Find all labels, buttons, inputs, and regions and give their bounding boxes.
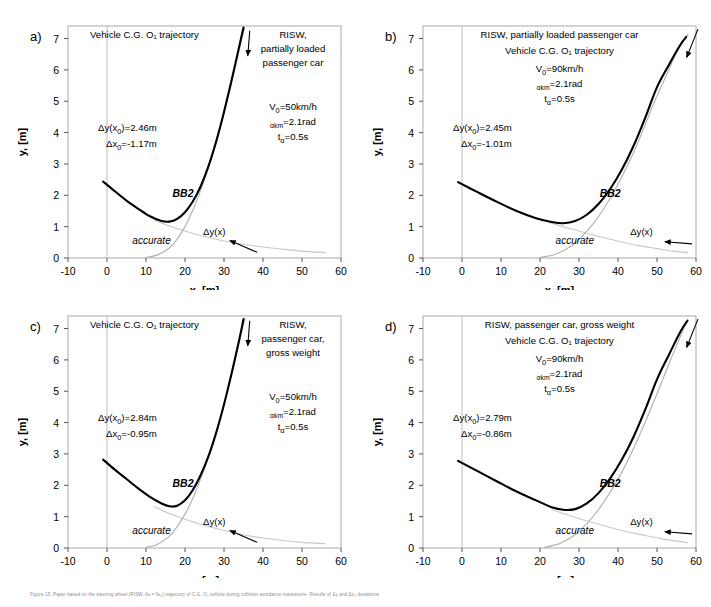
label-accurate: accurate xyxy=(132,235,171,246)
y-tick-label: 4 xyxy=(408,417,414,429)
y-tick-label: 5 xyxy=(408,95,414,107)
x-tick-label: 20 xyxy=(179,555,191,567)
x-tick-label: -10 xyxy=(415,555,430,567)
x-tick-label: 0 xyxy=(104,265,110,277)
label-bb2: BB2 xyxy=(600,477,621,489)
y-tick-label: 0 xyxy=(53,542,59,554)
panel-d: d)-10010203040506001234567x, [m]y, [m]RI… xyxy=(355,290,711,578)
y-tick-label: 0 xyxy=(408,252,414,264)
figure-caption: Figure 15. Paper based on the steering w… xyxy=(30,592,690,597)
plot-header-line: partially loaded xyxy=(261,43,326,54)
plot-c: c)-10010203040506001234567x, [m]y, [m]Ve… xyxy=(0,290,355,578)
plot-title: Vehicle C.G. O₁ trajectory xyxy=(505,335,614,346)
plot-title: RISW, passenger car, gross weight xyxy=(485,319,635,330)
y-tick-label: 7 xyxy=(408,323,414,335)
plot-title: Vehicle C.G. O₁ trajectory xyxy=(505,45,614,56)
plot-b: b)-10010203040506001234567x, [m]y, [m]RI… xyxy=(355,0,711,290)
x-tick-label: 50 xyxy=(651,265,663,277)
label-delta-y-x: Δy(x) xyxy=(203,516,225,527)
y-tick-label: 1 xyxy=(53,221,59,233)
x-tick-label: 20 xyxy=(534,555,546,567)
x-tick-label: -10 xyxy=(415,265,430,277)
y-tick-label: 2 xyxy=(53,479,59,491)
x-tick-label: 50 xyxy=(651,555,663,567)
x-tick-label: 50 xyxy=(296,265,308,277)
panel-letter-a: a) xyxy=(30,29,42,44)
x-tick-label: 60 xyxy=(690,265,702,277)
figure-container: a)-10010203040506001234567x, [m]y, [m]Ve… xyxy=(0,0,711,607)
y-tick-label: 1 xyxy=(408,511,414,523)
y-tick-label: 2 xyxy=(408,189,414,201)
y-tick-label: 4 xyxy=(53,417,59,429)
y-tick-label: 2 xyxy=(408,479,414,491)
x-tick-label: 60 xyxy=(690,555,702,567)
x-tick-label: -10 xyxy=(60,265,75,277)
y-tick-label: 3 xyxy=(53,448,59,460)
plot-title: RISW, partially loaded passenger car xyxy=(481,29,640,40)
x-tick-label: 10 xyxy=(140,555,152,567)
panel-letter-c: c) xyxy=(30,319,41,334)
x-axis-title: x, [m] xyxy=(545,574,575,578)
panel-letter-d: d) xyxy=(385,319,397,334)
y-tick-label: 5 xyxy=(53,385,59,397)
y-tick-label: 4 xyxy=(408,127,414,139)
plot-d: d)-10010203040506001234567x, [m]y, [m]RI… xyxy=(355,290,711,578)
y-axis-title: y, [m] xyxy=(371,417,383,446)
plot-a: a)-10010203040506001234567x, [m]y, [m]Ve… xyxy=(0,0,355,290)
x-tick-label: 60 xyxy=(335,555,347,567)
x-tick-label: 40 xyxy=(257,555,269,567)
label-delta-y-x: Δy(x) xyxy=(203,226,225,237)
y-tick-label: 6 xyxy=(408,354,414,366)
x-tick-label: 20 xyxy=(534,265,546,277)
y-tick-label: 3 xyxy=(53,158,59,170)
y-tick-label: 7 xyxy=(408,33,414,45)
x-tick-label: -10 xyxy=(60,555,75,567)
plot-title: Vehicle C.G. O₁ trajectory xyxy=(90,319,199,330)
label-accurate: accurate xyxy=(556,525,595,536)
label-bb2: BB2 xyxy=(173,477,194,489)
y-tick-label: 7 xyxy=(53,33,59,45)
panel-a: a)-10010203040506001234567x, [m]y, [m]Ve… xyxy=(0,0,355,290)
y-tick-label: 6 xyxy=(408,64,414,76)
x-tick-label: 30 xyxy=(573,555,585,567)
y-tick-label: 3 xyxy=(408,448,414,460)
y-tick-label: 3 xyxy=(408,158,414,170)
panel-b: b)-10010203040506001234567x, [m]y, [m]RI… xyxy=(355,0,711,290)
y-tick-label: 2 xyxy=(53,189,59,201)
label-accurate: accurate xyxy=(556,235,595,246)
y-tick-label: 1 xyxy=(408,221,414,233)
x-tick-label: 40 xyxy=(612,265,624,277)
label-bb2: BB2 xyxy=(173,187,194,199)
y-tick-label: 1 xyxy=(53,511,59,523)
plot-header-line: gross weight xyxy=(266,347,320,358)
x-tick-label: 0 xyxy=(104,555,110,567)
label-delta-y-x: Δy(x) xyxy=(630,516,652,527)
x-tick-label: 10 xyxy=(140,265,152,277)
plot-header-line: passenger car, xyxy=(262,333,325,344)
x-tick-label: 30 xyxy=(218,265,230,277)
x-tick-label: 40 xyxy=(257,265,269,277)
x-tick-label: 10 xyxy=(495,555,507,567)
y-tick-label: 7 xyxy=(53,323,59,335)
y-tick-label: 5 xyxy=(408,385,414,397)
label-bb2: BB2 xyxy=(600,187,621,199)
panel-grid: a)-10010203040506001234567x, [m]y, [m]Ve… xyxy=(0,0,711,578)
x-tick-label: 60 xyxy=(335,265,347,277)
x-tick-label: 10 xyxy=(495,265,507,277)
y-axis-title: y, [m] xyxy=(371,127,383,156)
y-tick-label: 0 xyxy=(53,252,59,264)
y-tick-label: 4 xyxy=(53,127,59,139)
y-axis-title: y, [m] xyxy=(16,127,28,156)
y-tick-label: 6 xyxy=(53,354,59,366)
x-tick-label: 0 xyxy=(459,265,465,277)
plot-header-line: passenger car xyxy=(263,57,325,68)
x-tick-label: 30 xyxy=(573,265,585,277)
x-tick-label: 50 xyxy=(296,555,308,567)
y-tick-label: 6 xyxy=(53,64,59,76)
plot-title: Vehicle C.G. O₁ trajectory xyxy=(90,29,199,40)
x-axis-title: x, [m] xyxy=(190,574,220,578)
plot-header-line: RISW, xyxy=(279,319,306,330)
y-tick-label: 5 xyxy=(53,95,59,107)
x-tick-label: 20 xyxy=(179,265,191,277)
panel-letter-b: b) xyxy=(385,29,397,44)
